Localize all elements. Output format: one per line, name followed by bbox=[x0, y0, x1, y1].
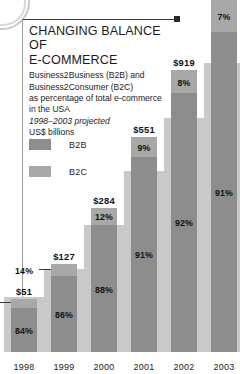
bar-label-b2b-2003: 91% bbox=[211, 188, 237, 198]
bar-label-b2b-2002: 92% bbox=[171, 218, 197, 228]
bar-total-1999: $127 bbox=[44, 251, 84, 262]
bar-label-b2c-1999: 14% bbox=[15, 266, 33, 276]
bar-1999: 86% bbox=[51, 264, 77, 352]
backdrop-step bbox=[124, 171, 164, 352]
bar-total-2000: $284 bbox=[84, 195, 124, 206]
leader-line-1999 bbox=[39, 269, 51, 270]
header-text-block: CHANGING BALANCE OF E-COMMERCE Business2… bbox=[29, 24, 179, 139]
x-axis-label-2001: 2001 bbox=[124, 362, 164, 372]
infographic-page: { "header": { "title": "CHANGING BALANCE… bbox=[0, 0, 240, 374]
legend-label: B2B bbox=[69, 140, 87, 150]
text-block-left-rule bbox=[22, 19, 23, 335]
bar-label-b2b-2000: 88% bbox=[91, 285, 117, 295]
x-axis-label-2003: 2003 bbox=[204, 362, 240, 372]
page-subtitle: Business2Business (B2B) and Business2Con… bbox=[29, 70, 179, 116]
bar-label-b2b-1999: 86% bbox=[51, 310, 77, 320]
pointer-dot-marker bbox=[174, 16, 180, 22]
pointer-leader-line bbox=[22, 19, 177, 20]
x-axis-labels: 199819992000200120022003 bbox=[0, 354, 240, 372]
bar-total-1998: $51 bbox=[4, 286, 44, 297]
legend-item-b2c: B2C bbox=[29, 165, 149, 178]
legend-swatch-b2b bbox=[29, 139, 51, 150]
backdrop-step bbox=[204, 63, 240, 352]
bar-segment-b2c-2003 bbox=[211, 0, 237, 32]
bar-segment-b2b-1999 bbox=[51, 276, 77, 352]
bar-2000: 88%12% bbox=[91, 208, 117, 352]
projection-note: 1998–2003 projected bbox=[29, 116, 179, 127]
bar-segment-b2b-2000 bbox=[91, 225, 117, 352]
x-axis-label-1999: 1999 bbox=[44, 362, 84, 372]
bar-label-b2b-2001: 91% bbox=[131, 250, 157, 260]
chart-legend: B2BB2C bbox=[29, 138, 149, 192]
x-axis-label-2000: 2000 bbox=[84, 362, 124, 372]
bar-label-b2c-2000: 12% bbox=[91, 212, 117, 222]
bar-2003: 91%7% bbox=[211, 0, 237, 352]
backdrop-step bbox=[44, 269, 84, 352]
bar-label-b2c-2003: 7% bbox=[211, 12, 237, 22]
backdrop-step bbox=[4, 297, 44, 352]
bar-segment-b2c-2000 bbox=[91, 208, 117, 225]
legend-item-b2b: B2B bbox=[29, 138, 149, 151]
leader-line-1998 bbox=[0, 302, 11, 303]
bar-segment-b2c-1998 bbox=[11, 299, 37, 307]
backdrop-step bbox=[84, 225, 124, 352]
bar-segment-b2b-2003 bbox=[211, 32, 237, 352]
bar-segment-b2c-1999 bbox=[51, 264, 77, 276]
page-title: CHANGING BALANCE OF E-COMMERCE bbox=[29, 24, 179, 67]
bar-1998: 84% bbox=[11, 299, 37, 352]
x-axis-label-2002: 2002 bbox=[164, 362, 204, 372]
bar-segment-b2b-1998 bbox=[11, 308, 37, 352]
bar-label-b2b-1998: 84% bbox=[11, 326, 37, 336]
units-label: US$ billions bbox=[29, 127, 179, 138]
backdrop-step bbox=[164, 118, 204, 352]
legend-label: B2C bbox=[69, 167, 87, 177]
x-axis-label-1998: 1998 bbox=[4, 362, 44, 372]
legend-swatch-b2c bbox=[29, 166, 51, 177]
